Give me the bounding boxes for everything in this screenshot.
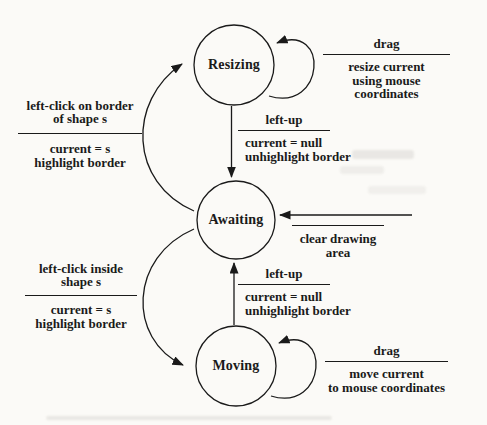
action-line: unhighlight border — [245, 303, 330, 317]
state-moving-label: Moving — [212, 358, 259, 374]
action-line: highlight border — [25, 316, 137, 330]
action-line: current = s — [18, 141, 142, 155]
state-resizing-label: Resizing — [208, 57, 260, 73]
transition-moving-self-loop — [271, 340, 316, 398]
transition-awaiting-to-moving-arc — [143, 229, 194, 365]
event-line: of shape s — [18, 112, 142, 125]
transition-awaiting-to-resizing-arc — [143, 64, 194, 211]
action-line: current = null — [245, 289, 330, 303]
event-line: shape s — [25, 275, 137, 288]
action-line: resize current — [323, 59, 450, 73]
event-name: drag — [323, 37, 450, 55]
action-line: highlight border — [18, 155, 142, 169]
label-start-to-awaiting: clear drawing area — [292, 225, 384, 259]
action-line: to mouse coordinates — [325, 380, 448, 394]
state-resizing: Resizing — [194, 25, 274, 105]
scan-artifact — [340, 166, 384, 174]
label-resizing-drag: drag resize current using mouse coordina… — [323, 37, 450, 100]
scan-artifact — [352, 150, 414, 159]
action-line: current = s — [25, 302, 137, 316]
event-name: left-up — [238, 113, 330, 131]
state-moving: Moving — [196, 326, 276, 406]
scan-artifact — [368, 186, 426, 194]
transition-resizing-self-loop — [269, 40, 314, 98]
action-line: area — [292, 245, 384, 259]
action-line: clear drawing — [292, 231, 384, 245]
state-diagram: Resizing Awaiting Moving drag resize cur… — [0, 0, 487, 425]
event-name: left-up — [238, 267, 330, 285]
label-awaiting-to-resizing: left-click on border of shape s current … — [18, 99, 142, 169]
action-line: using mouse coordinates — [323, 73, 450, 100]
label-resizing-to-awaiting: left-up current = null unhighlight borde… — [238, 113, 330, 163]
label-moving-to-awaiting: left-up current = null unhighlight borde… — [238, 267, 330, 317]
action-line: current = null — [245, 135, 330, 149]
scan-artifact — [46, 416, 332, 420]
event-name: drag — [325, 344, 448, 362]
action-line: unhighlight border — [245, 149, 330, 163]
label-moving-drag: drag move current to mouse coordinates — [325, 344, 448, 394]
state-awaiting-label: Awaiting — [208, 212, 263, 228]
label-awaiting-to-moving: left-click inside shape s current = s hi… — [25, 262, 137, 330]
state-awaiting: Awaiting — [197, 181, 275, 259]
action-line: move current — [325, 366, 448, 380]
